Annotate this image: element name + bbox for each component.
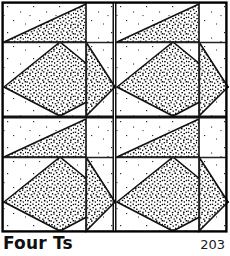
quilt-block-bottom-right bbox=[115, 117, 228, 232]
figure-page: Four Ts 203 bbox=[0, 0, 230, 256]
page-number: 203 bbox=[200, 235, 225, 254]
block-row-bottom bbox=[2, 117, 228, 232]
caption-row: Four Ts 203 bbox=[0, 233, 230, 256]
quilt-block-bottom-left bbox=[2, 117, 115, 232]
pattern-name: Four Ts bbox=[3, 233, 73, 254]
quilt-diagram-svg bbox=[0, 0, 230, 233]
quilt-diagram bbox=[0, 0, 230, 233]
quilt-block-top-left bbox=[2, 2, 115, 117]
quilt-block-top-right bbox=[115, 2, 228, 117]
block-row-top bbox=[2, 2, 228, 117]
